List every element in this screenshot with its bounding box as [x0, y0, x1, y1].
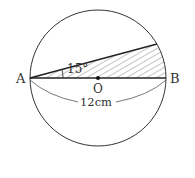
label-o: O	[93, 82, 103, 96]
geometry-diagram: A B O 15° 12cm	[0, 0, 195, 178]
label-length: 12cm	[80, 95, 112, 109]
label-angle: 15°	[67, 62, 88, 76]
label-a: A	[15, 71, 26, 86]
dimension-curve-right	[116, 80, 166, 102]
center-point	[96, 76, 100, 80]
dimension-curve-left	[30, 80, 78, 102]
label-b: B	[170, 71, 180, 86]
